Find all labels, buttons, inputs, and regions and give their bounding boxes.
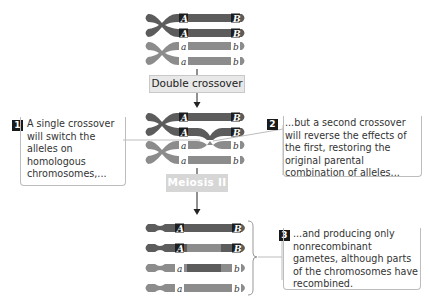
svg-text:b: b bbox=[234, 284, 240, 294]
double-crossover-label: Double crossover bbox=[149, 75, 245, 93]
svg-text:a: a bbox=[181, 57, 186, 67]
svg-text:B: B bbox=[232, 29, 241, 39]
svg-text:A: A bbox=[176, 224, 184, 234]
svg-text:A: A bbox=[180, 14, 188, 24]
svg-text:b: b bbox=[233, 156, 239, 166]
svg-text:A: A bbox=[176, 244, 184, 254]
svg-text:b: b bbox=[234, 264, 240, 274]
callout-text: A single crossover will switch the allel… bbox=[27, 118, 127, 181]
svg-text:a: a bbox=[181, 156, 186, 166]
svg-text:B: B bbox=[232, 14, 241, 24]
svg-text:B: B bbox=[232, 113, 241, 123]
svg-text:b: b bbox=[233, 141, 239, 151]
step-number-badge: 2 bbox=[267, 119, 278, 130]
callout-3: 3 ...and producing only nonrecombinant g… bbox=[283, 228, 421, 290]
svg-text:b: b bbox=[233, 42, 239, 52]
middle-chromosome-pair: A B A B a b a b bbox=[146, 113, 245, 166]
callout-text: ...and producing only nonrecombinant gam… bbox=[293, 228, 419, 291]
gamete-brace bbox=[248, 221, 257, 295]
svg-text:A: A bbox=[180, 29, 188, 39]
svg-text:a: a bbox=[177, 264, 182, 274]
svg-text:A: A bbox=[180, 113, 188, 123]
callout-text: ...but a second crossover will reverse t… bbox=[285, 117, 420, 180]
svg-text:B: B bbox=[233, 244, 242, 254]
svg-text:A: A bbox=[180, 128, 188, 138]
top-chromosome-pair: A B A B a b a b bbox=[146, 14, 245, 67]
gametes: A B A B a b a b bbox=[146, 224, 246, 294]
svg-text:b: b bbox=[233, 57, 239, 67]
meiosis-ii-label: Meiosis II bbox=[166, 174, 228, 192]
svg-text:a: a bbox=[177, 284, 182, 294]
svg-text:B: B bbox=[233, 224, 242, 234]
callout-2: 2 ...but a second crossover will reverse… bbox=[283, 116, 422, 176]
svg-text:a: a bbox=[181, 141, 186, 151]
svg-text:a: a bbox=[181, 42, 186, 52]
callout-1: 1 A single crossover will switch the all… bbox=[12, 117, 123, 186]
